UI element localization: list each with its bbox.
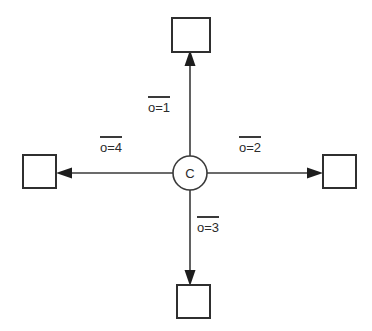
left-node-square xyxy=(23,155,56,188)
bottom-node-square xyxy=(177,285,210,318)
center-node-label: C xyxy=(180,167,200,180)
top-node-square xyxy=(172,18,210,52)
edge-label-down: o=3 xyxy=(197,216,219,234)
edge-label-left: o=4 xyxy=(100,136,122,154)
overline-bar-down xyxy=(197,216,219,218)
overline-bar-right xyxy=(239,136,261,138)
edge-label-down-text: o=3 xyxy=(197,221,219,234)
edge-label-up: o=1 xyxy=(148,96,170,114)
edge-label-right-text: o=2 xyxy=(239,141,261,154)
overline-bar-left xyxy=(100,136,122,138)
edge-label-right: o=2 xyxy=(239,136,261,154)
diagram-canvas: C o=1 o=2 o=3 o=4 xyxy=(0,0,372,331)
arrowhead-left-icon xyxy=(56,168,72,179)
edge-label-up-text: o=1 xyxy=(148,101,170,114)
arrowhead-right-icon xyxy=(307,168,323,179)
right-node-square xyxy=(323,155,356,188)
arrowhead-down-icon xyxy=(185,270,196,286)
overline-bar-up xyxy=(148,96,170,98)
edge-label-left-text: o=4 xyxy=(100,141,122,154)
